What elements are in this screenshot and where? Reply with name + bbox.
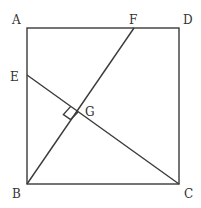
label-f: F	[129, 13, 137, 27]
geometry-diagram: A F D E G B C	[0, 0, 201, 208]
segment-ce	[27, 75, 179, 184]
label-c: C	[184, 187, 193, 201]
label-d: D	[183, 13, 193, 27]
label-b: B	[12, 187, 21, 201]
label-e: E	[10, 70, 19, 84]
label-g: G	[85, 105, 95, 119]
segment-bf	[27, 28, 134, 184]
square-abcd	[27, 28, 179, 184]
label-a: A	[11, 13, 21, 27]
